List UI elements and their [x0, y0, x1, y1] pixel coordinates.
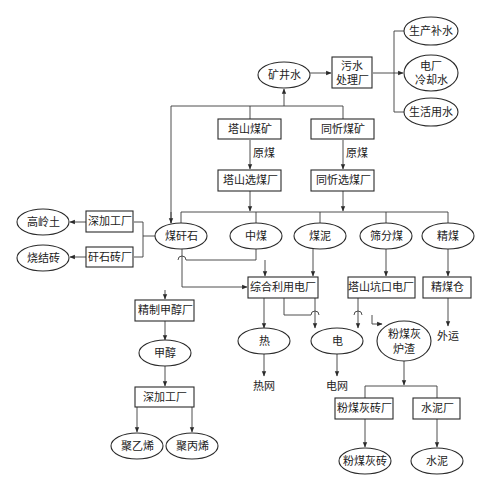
power-crossbus [284, 298, 311, 315]
svg-text:高岭土: 高岭土 [27, 215, 60, 229]
node-polyethylene: 聚乙烯 [111, 433, 163, 459]
svg-text:同忻煤矿: 同忻煤矿 [321, 123, 365, 136]
svg-text:热: 热 [259, 335, 270, 348]
node-tongxin-mine: 同忻煤矿 [311, 119, 374, 139]
svg-text:精煤: 精煤 [437, 230, 459, 243]
middlings-to-methanol [186, 249, 256, 260]
svg-text:塔山煤矿: 塔山煤矿 [228, 123, 272, 136]
svg-text:综合利用电厂: 综合利用电厂 [250, 280, 316, 294]
node-clean-coal: 精煤 [422, 223, 474, 249]
node-cement: 水泥 [411, 448, 463, 474]
node-fly-ash-slag: 粉煤灰 炉渣 [377, 321, 431, 361]
svg-text:聚丙烯: 聚丙烯 [176, 440, 209, 453]
node-domestic-water: 生活用水 [404, 98, 458, 126]
svg-text:粉煤灰砖厂: 粉煤灰砖厂 [337, 401, 392, 415]
node-methanol: 甲醇 [139, 340, 191, 366]
svg-text:烧结砖: 烧结砖 [27, 251, 60, 265]
svg-text:水泥厂: 水泥厂 [421, 402, 454, 415]
svg-text:甲醇: 甲醇 [154, 346, 176, 360]
node-tashan-prep-plant: 塔山选煤厂 [218, 170, 281, 191]
flow-diagram: 矿井水 污水 处理厂 生产补水 电厂 冷却水 生活用水 塔山煤矿 同忻煤矿 原煤… [0, 0, 485, 486]
node-plant-cooling-water: 电厂 冷却水 [404, 55, 458, 91]
svg-text:精煤仓: 精煤仓 [431, 280, 464, 294]
gangue-plants-bracket [134, 222, 143, 257]
svg-text:生活用水: 生活用水 [409, 105, 453, 119]
node-comprehensive-power-plant: 综合利用电厂 [248, 277, 318, 298]
node-polypropylene: 聚丙烯 [166, 433, 218, 459]
node-fly-ash-brick: 粉煤灰砖 [339, 448, 391, 474]
node-middlings: 中煤 [230, 223, 282, 249]
label-power-grid: 电网 [326, 380, 348, 393]
node-sintered-brick: 烧结砖 [17, 245, 69, 271]
svg-text:塔山坑口电厂: 塔山坑口电厂 [348, 280, 414, 294]
svg-text:电厂: 电厂 [420, 60, 442, 73]
svg-text:塔山选煤厂: 塔山选煤厂 [223, 174, 278, 187]
node-tashan-mine: 塔山煤矿 [218, 119, 281, 139]
svg-text:冷却水: 冷却水 [415, 74, 448, 87]
svg-text:电: 电 [332, 335, 343, 348]
svg-text:煤泥: 煤泥 [309, 230, 331, 243]
svg-text:生产补水: 生产补水 [409, 24, 453, 38]
svg-text:粉煤灰砖: 粉煤灰砖 [343, 454, 387, 468]
node-methanol-refinery: 精制甲醇厂 [135, 300, 194, 321]
svg-text:深加工厂: 深加工厂 [88, 215, 132, 228]
node-sewage-treatment-plant: 污水 处理厂 [332, 57, 372, 88]
node-coal-slime: 煤泥 [294, 223, 346, 249]
node-mine-water: 矿井水 [258, 62, 310, 88]
svg-text:污水: 污水 [341, 60, 363, 73]
node-screened-coal: 筛分煤 [360, 223, 412, 249]
svg-text:粉煤灰: 粉煤灰 [388, 327, 421, 341]
node-gangue-deep-processing: 深加工厂 [86, 211, 133, 232]
label-export: 外运 [437, 330, 459, 343]
node-coal-gangue: 煤矸石 [155, 223, 207, 249]
svg-text:深加工厂: 深加工厂 [143, 391, 187, 404]
svg-text:同忻选煤厂: 同忻选煤厂 [316, 174, 371, 187]
gangue-to-power [182, 249, 247, 287]
svg-text:精制甲醇厂: 精制甲醇厂 [138, 303, 193, 317]
label-raw-coal: 原煤 [346, 147, 368, 160]
svg-text:矿井水: 矿井水 [268, 68, 301, 82]
label-heat-network: 热网 [253, 380, 275, 393]
node-tongxin-prep-plant: 同忻选煤厂 [311, 170, 374, 191]
node-tashan-mine-mouth-power-plant: 塔山坑口电厂 [348, 277, 415, 298]
svg-text:煤矸石: 煤矸石 [165, 230, 198, 243]
node-cement-plant: 水泥厂 [413, 398, 460, 419]
node-methanol-deep-processing: 深加工厂 [135, 387, 194, 407]
svg-text:水泥: 水泥 [426, 455, 448, 468]
label-raw-coal: 原煤 [253, 147, 275, 160]
node-kaolin: 高岭土 [17, 209, 69, 235]
node-production-water: 生产补水 [404, 17, 458, 45]
svg-text:炉渣: 炉渣 [393, 342, 415, 356]
node-heat: 热 [238, 328, 290, 354]
node-gangue-brick-plant: 矸石砖厂 [86, 247, 133, 267]
svg-text:矸石砖厂: 矸石砖厂 [88, 250, 132, 264]
svg-text:处理厂: 处理厂 [336, 74, 369, 87]
node-electricity: 电 [311, 328, 363, 354]
svg-text:筛分煤: 筛分煤 [370, 229, 403, 243]
ash-plants-bus [365, 386, 437, 398]
node-fly-ash-brick-plant: 粉煤灰砖厂 [335, 398, 393, 419]
arrow-to-ash-slag [372, 315, 382, 324]
node-clean-coal-bin: 精煤仓 [423, 277, 471, 298]
svg-text:中煤: 中煤 [245, 230, 267, 243]
svg-text:聚乙烯: 聚乙烯 [121, 440, 154, 453]
